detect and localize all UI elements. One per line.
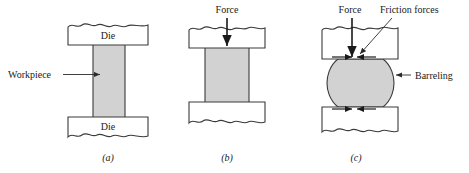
panel-a-caption: (a) [102, 152, 114, 164]
panel-c-workpiece-barreled [327, 59, 394, 107]
panel-c-force-label: Force [339, 4, 362, 15]
panel-a-workpiece [93, 44, 125, 118]
panel-b-lower-die [189, 102, 265, 123]
panel-a-workpiece-label: Workpiece [8, 69, 52, 80]
panel-c-lower-die [322, 107, 398, 132]
panel-a-lower-die-label: Die [101, 121, 116, 132]
panel-c-barreling-label: Barreling [415, 70, 453, 81]
panel-c-friction-forces-label: Friction forces [380, 4, 439, 15]
panel-c-caption: (c) [350, 152, 362, 164]
panel-b-caption: (b) [221, 152, 233, 164]
panel-b-workpiece [205, 47, 249, 103]
panel-b-force-label: Force [216, 4, 239, 15]
figure-container: Die Die Workpiece (a) Force (b) [0, 0, 469, 173]
upsetting-diagram: Die Die Workpiece (a) Force (b) [0, 0, 469, 173]
panel-c-upper-die [322, 27, 398, 59]
panel-a-upper-die-label: Die [101, 30, 116, 41]
